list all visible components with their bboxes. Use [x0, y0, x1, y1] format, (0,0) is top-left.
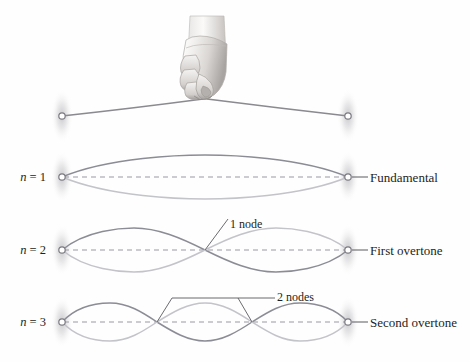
right-peg-row1	[345, 174, 351, 180]
mode-label-n1-value: = 1	[26, 170, 46, 184]
plucked-string-row	[62, 99, 348, 116]
label-two-nodes: 2 nodes	[277, 291, 314, 303]
label-second-overtone: Second overtone	[370, 316, 457, 329]
mode-label-n3-value: = 3	[26, 315, 46, 329]
right-peg-row0	[345, 113, 351, 119]
left-peg-row0	[59, 113, 65, 119]
leader-line-one-node	[205, 219, 228, 250]
wave-envelope-lower-n1	[62, 177, 348, 199]
hand-fist-gripping-string-icon	[180, 16, 227, 100]
plucked-string-right-segment	[207, 99, 348, 116]
right-peg-row3	[345, 319, 351, 325]
left-peg-row1	[59, 174, 65, 180]
mode-label-n3: n = 3	[20, 316, 46, 329]
mode-label-n2-value: = 2	[26, 243, 46, 257]
label-first-overtone: First overtone	[370, 244, 443, 257]
anchor-blur-group	[51, 89, 359, 348]
mode-row-n3	[62, 298, 368, 341]
mode-row-n1	[62, 155, 368, 199]
mode-label-n2: n = 2	[20, 244, 46, 257]
mode-row-n2	[62, 219, 368, 272]
label-fundamental: Fundamental	[370, 171, 438, 184]
wave-envelope-upper-n1	[62, 155, 348, 177]
mode-label-n1: n = 1	[20, 171, 46, 184]
left-peg-row2	[59, 247, 65, 253]
right-peg-row2	[345, 247, 351, 253]
plucked-string-left-segment	[62, 99, 203, 116]
label-one-node: 1 node	[230, 218, 262, 230]
left-peg-row3	[59, 319, 65, 325]
